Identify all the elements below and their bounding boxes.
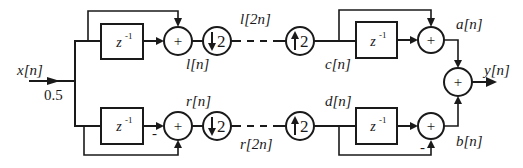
arrow-up-icon [174,140,182,148]
output-arrow-icon [486,77,497,87]
minus-sign: - [420,139,425,155]
arrow-right-icon [156,37,164,45]
signal-r-2n: r[2n] [240,136,273,152]
delay-block-top-left [101,24,143,59]
arrow-right-icon [410,122,418,130]
delay-symbol: z [115,119,122,134]
upsample-factor: 2 [300,32,309,51]
signal-c-n: c[n] [325,56,351,72]
top-right-section: 2 z -1 + [286,10,462,68]
plus-symbol: + [454,74,462,90]
delay-exponent: -1 [125,115,133,125]
arrow-down-icon [454,60,462,68]
arrow-right-icon [156,122,164,130]
delay-exponent: -1 [379,30,387,40]
arrow-up-icon [454,96,462,104]
delay-block-bottom-right [356,108,397,144]
input-branch [29,40,75,126]
plus-symbol: + [427,32,435,48]
arrow-down-icon [174,18,182,27]
plus-symbol: + [174,118,182,134]
signal-d-n: d[n] [325,93,352,109]
plus-symbol: + [174,33,182,49]
upsample-factor: 2 [300,117,309,136]
delay-exponent: -1 [125,31,133,41]
delay-block-top-right [356,22,397,58]
arrow-down-icon [427,18,435,27]
delay-symbol: z [115,35,122,50]
signal-a-n: a[n] [456,16,483,32]
delay-symbol: z [369,119,376,134]
signal-l-n: l[n] [186,56,210,72]
downsample-factor: 2 [217,32,226,51]
arrow-up-icon [427,140,435,148]
filter-bank-diagram: x[n] 0.5 z -1 + 2 l[n] l[2n] [0,0,523,168]
input-signal-label: x[n] [16,62,43,78]
bottom-left-section: z -1 - + 2 [74,108,231,155]
delay-exponent: -1 [379,115,387,125]
arrow-right-icon [410,36,418,44]
plus-symbol: + [427,118,435,134]
input-arrow-icon [47,77,60,85]
top-left-section: z -1 + 2 [74,11,231,59]
delay-symbol: z [369,34,376,49]
signal-b-n: b[n] [456,133,483,149]
input-gain-label: 0.5 [44,87,63,103]
delay-block-bottom-left [101,108,143,144]
signal-l-2n: l[2n] [240,11,271,27]
bottom-right-section: 2 - z -1 + [286,96,462,155]
output-signal-label: y[n] [482,62,510,78]
minus-sign: - [152,125,157,141]
signal-r-n: r[n] [186,93,211,109]
downsample-factor: 2 [217,117,226,136]
